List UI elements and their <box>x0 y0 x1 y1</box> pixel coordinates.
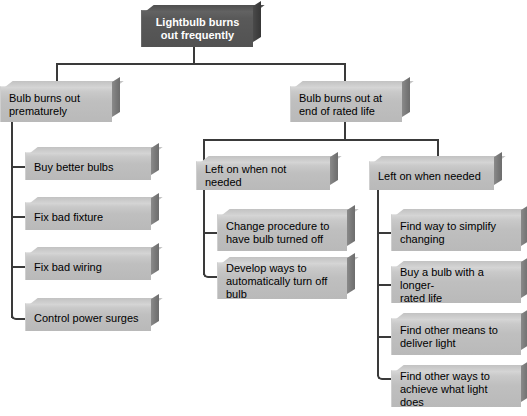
node-far-child-4-label: Find other ways to achieve what light do… <box>400 370 511 409</box>
node-far-child-3-label: Find other means to deliver light <box>400 324 511 350</box>
connector-left-stub-2 <box>11 216 25 218</box>
connector-far-trunk <box>377 190 379 376</box>
connector-far-stub-2 <box>377 284 391 286</box>
node-right-branch[interactable]: Bulb burns out at end of rated life <box>290 86 402 122</box>
node-subbranch-needed-label: Left on when needed <box>378 170 484 183</box>
node-subbranch-needed[interactable]: Left on when needed <box>369 161 494 190</box>
connector-root-bar <box>56 63 346 65</box>
node-far-child-1-label: Find way to simplify changing <box>400 220 511 246</box>
node-left-child-3-label: Fix bad wiring <box>34 260 141 273</box>
node-mid-child-1[interactable]: Change procedure to have bulb turned off <box>217 214 347 251</box>
node-left-child-4[interactable]: Control power surges <box>25 303 151 331</box>
node-mid-child-1-label: Change procedure to have bulb turned off <box>226 220 337 246</box>
node-left-branch[interactable]: Bulb burns out prematurely <box>0 86 112 122</box>
node-right-branch-label: Bulb burns out at end of rated life <box>299 92 392 118</box>
node-left-child-1[interactable]: Buy better bulbs <box>25 152 151 180</box>
node-subbranch-not-needed-label: Left on when not needed <box>205 163 320 189</box>
node-far-child-4[interactable]: Find other ways to achieve what light do… <box>391 370 521 407</box>
node-far-child-2[interactable]: Buy a bulb with a longer- rated life <box>391 266 521 303</box>
connector-left-trunk <box>11 122 13 318</box>
node-far-child-3[interactable]: Find other means to deliver light <box>391 318 521 355</box>
node-left-child-1-label: Buy better bulbs <box>34 160 141 173</box>
node-root-label: Lightbulb burns out frequently <box>146 16 249 42</box>
connector-far-stub-1 <box>377 232 391 234</box>
node-left-child-2-label: Fix bad fixture <box>34 210 141 223</box>
connector-far-stub-3 <box>377 336 391 338</box>
node-root[interactable]: Lightbulb burns out frequently <box>141 10 253 47</box>
node-mid-child-2[interactable]: Develop ways to automatically turn off b… <box>217 262 347 299</box>
node-subbranch-not-needed[interactable]: Left on when not needed <box>196 161 330 190</box>
node-far-child-2-label: Buy a bulb with a longer- rated life <box>400 266 511 305</box>
node-left-child-3[interactable]: Fix bad wiring <box>25 252 151 280</box>
node-left-child-2[interactable]: Fix bad fixture <box>25 202 151 230</box>
node-left-branch-label: Bulb burns out prematurely <box>9 92 102 118</box>
connector-left-stub-3 <box>11 266 25 268</box>
flowchart-canvas: Lightbulb burns out frequently Bulb burn… <box>0 0 527 416</box>
connector-right-bar <box>203 139 439 141</box>
node-mid-child-2-label: Develop ways to automatically turn off b… <box>226 262 337 301</box>
connector-left-stub-1 <box>11 166 25 168</box>
node-far-child-1[interactable]: Find way to simplify changing <box>391 214 521 251</box>
connector-mid-stub-1 <box>203 232 217 234</box>
node-left-child-4-label: Control power surges <box>34 311 141 324</box>
